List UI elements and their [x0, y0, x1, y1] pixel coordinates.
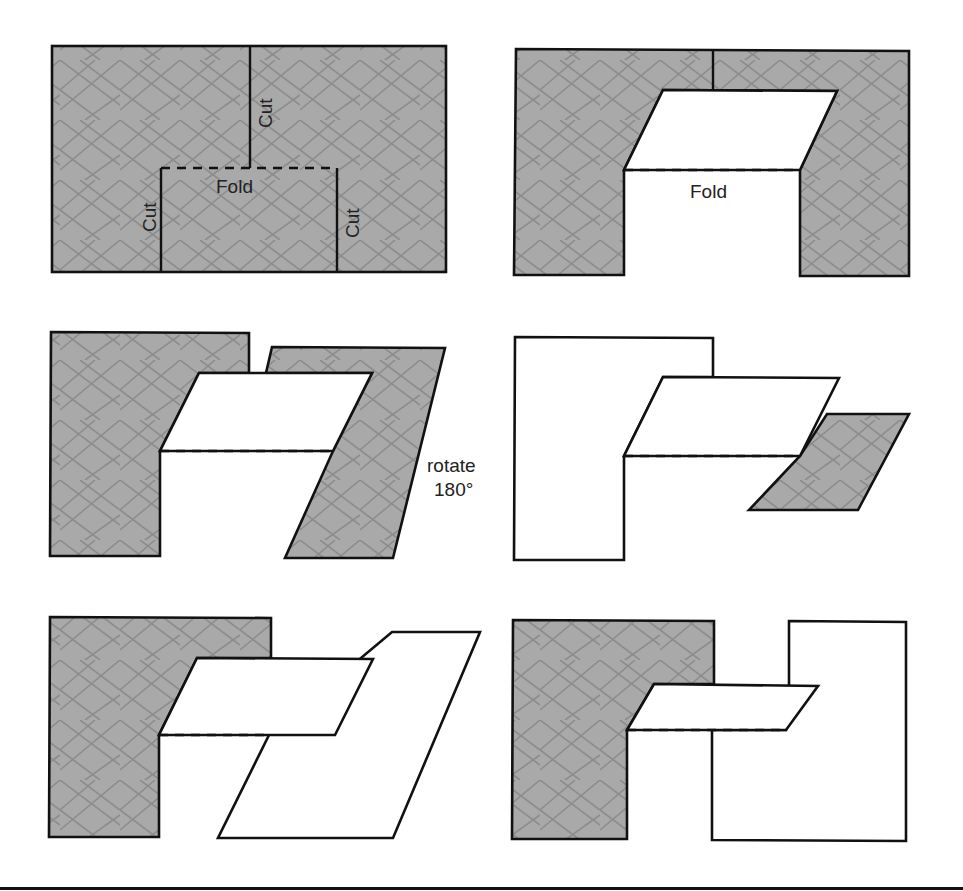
label-rotate: rotate	[427, 455, 476, 476]
label-cut-left: Cut	[139, 202, 160, 232]
panel-step-3: rotate 180°	[50, 332, 476, 558]
panel-step-4	[514, 337, 909, 560]
panel-step-1: Cut Fold Cut Cut	[52, 46, 446, 272]
folded-flap	[160, 373, 372, 451]
bottom-divider	[0, 887, 963, 890]
panel-step-2: Fold	[514, 49, 909, 276]
label-fold: Fold	[690, 181, 727, 202]
label-cut-top: Cut	[255, 98, 276, 128]
folded-flap	[624, 90, 837, 170]
folded-flap	[159, 658, 373, 735]
label-cut-right: Cut	[342, 208, 363, 238]
folded-flap	[627, 684, 818, 730]
panel-step-6	[512, 620, 906, 841]
fold-diagram: Cut Fold Cut Cut Fold rotate 180°	[0, 0, 963, 891]
label-rotate-degrees: 180°	[434, 479, 473, 500]
panel-step-5	[49, 617, 480, 838]
label-fold: Fold	[216, 176, 253, 197]
folded-flap	[624, 377, 839, 456]
